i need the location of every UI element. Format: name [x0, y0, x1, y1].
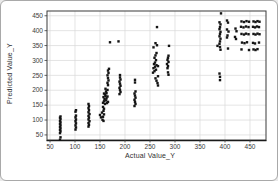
data-point [227, 47, 229, 49]
data-point [155, 68, 157, 70]
data-point [106, 82, 108, 84]
data-point [87, 107, 89, 109]
data-point [227, 30, 229, 32]
x-tick-label: 50 [46, 143, 54, 150]
data-point [157, 84, 159, 86]
data-point [88, 109, 90, 111]
x-tick-label: 400 [220, 143, 231, 150]
data-point [218, 21, 220, 23]
data-point [108, 68, 110, 70]
data-point [219, 76, 221, 78]
data-point [218, 35, 220, 37]
data-point [109, 41, 111, 43]
data-point [106, 95, 108, 97]
data-point [104, 88, 106, 90]
y-tick-label: 450 [32, 12, 43, 19]
data-point [243, 21, 245, 23]
data-point [218, 72, 220, 74]
data-point [156, 44, 158, 46]
y-tick-label: 300 [32, 57, 43, 64]
data-point [166, 63, 168, 65]
data-point [167, 57, 169, 59]
data-point [118, 80, 120, 82]
data-point [219, 40, 221, 42]
data-point [246, 41, 248, 43]
data-point [119, 85, 121, 87]
data-point [107, 79, 109, 81]
data-point [258, 26, 260, 28]
data-point [103, 92, 105, 94]
data-point [134, 81, 136, 83]
x-axis-title: Actual Value_Y [40, 151, 260, 160]
data-point [106, 74, 108, 76]
data-point [245, 32, 247, 34]
data-point [166, 59, 168, 61]
data-point [156, 26, 158, 28]
x-tick-label: 200 [120, 143, 131, 150]
y-tick-label: 250 [32, 72, 43, 79]
data-point [248, 21, 250, 23]
data-point [258, 21, 260, 23]
data-point [75, 114, 77, 116]
x-tick-label: 450 [245, 143, 256, 150]
x-tick-label: 100 [70, 143, 81, 150]
data-point [235, 38, 237, 40]
y-tick-label: 350 [32, 42, 43, 49]
data-point [240, 33, 242, 35]
data-point [155, 80, 157, 82]
x-tick-label: 250 [145, 143, 156, 150]
data-point [157, 65, 159, 67]
scatter-plot-screenshot: 5010015020025030035040045050100150200250… [0, 0, 278, 181]
x-tick-label: 350 [195, 143, 206, 150]
data-point [134, 94, 136, 96]
data-point [75, 109, 77, 111]
data-point [102, 106, 104, 108]
data-point [226, 36, 228, 38]
data-point [218, 43, 220, 45]
data-point [107, 77, 109, 79]
data-point [119, 91, 121, 93]
y-tick-label: 400 [32, 27, 43, 34]
data-point [59, 136, 61, 138]
data-point [219, 23, 221, 25]
data-point [226, 19, 228, 21]
data-point [247, 33, 249, 35]
data-point [152, 46, 154, 48]
data-point [119, 76, 121, 78]
data-point [133, 92, 135, 94]
data-point [219, 79, 221, 81]
data-point [153, 57, 155, 59]
data-point [119, 89, 121, 91]
data-point [155, 59, 157, 61]
data-point [99, 114, 101, 116]
data-point [219, 31, 221, 33]
data-point [134, 101, 136, 103]
data-point [59, 139, 61, 141]
y-tick-label: 50 [36, 131, 44, 138]
data-point [219, 38, 221, 40]
data-point [234, 27, 236, 29]
y-tick-label: 200 [32, 86, 43, 93]
data-point [167, 54, 169, 56]
data-point [59, 115, 61, 117]
data-point [168, 45, 170, 47]
data-point [153, 63, 155, 65]
data-point [133, 99, 135, 101]
data-point [167, 71, 169, 73]
data-point [119, 82, 121, 84]
data-point [74, 128, 76, 130]
data-point [245, 25, 247, 27]
y-tick-label: 100 [32, 116, 43, 123]
data-point [245, 20, 247, 22]
data-point [219, 26, 221, 28]
data-point [134, 79, 136, 81]
data-point [254, 42, 256, 44]
data-point [107, 101, 109, 103]
data-point [155, 52, 157, 54]
data-point [134, 90, 136, 92]
data-point [234, 36, 236, 38]
data-point [241, 41, 243, 43]
data-point [134, 96, 136, 98]
data-point [102, 110, 104, 112]
data-point [242, 26, 244, 28]
